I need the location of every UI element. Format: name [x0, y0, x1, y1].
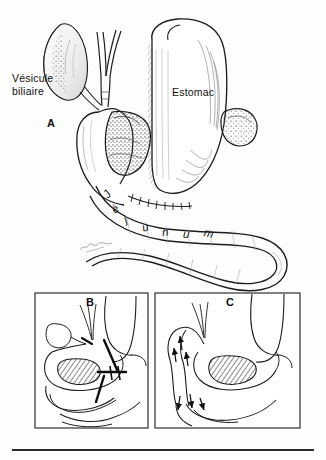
panel-a-illustration	[44, 19, 287, 291]
spleen	[221, 109, 257, 146]
label-panel-c: C	[226, 296, 234, 308]
pancreatic-tumor-mass	[105, 111, 150, 175]
panel-c-illustration	[155, 293, 300, 428]
jejunum-letter: m	[203, 226, 215, 240]
bile-duct-bifurcation	[97, 30, 121, 107]
medical-figure: Vésicule biliaire Estomac A B C Jéjunum	[0, 0, 326, 460]
label-gallbladder: Vésicule biliaire	[12, 72, 82, 97]
anastomosis-suture-line	[128, 194, 192, 210]
artist-signature	[80, 243, 112, 252]
jejunum-letter: u	[183, 228, 190, 240]
stomach	[148, 19, 227, 193]
label-gallbladder-line2: biliaire	[12, 85, 82, 98]
label-gallbladder-line1: Vésicule	[12, 72, 82, 85]
label-stomach: Estomac	[172, 86, 214, 99]
label-panel-b: B	[86, 296, 94, 308]
jejunum-letter: n	[161, 226, 169, 239]
label-panel-a: A	[47, 117, 55, 129]
panel-b-illustration	[35, 293, 148, 428]
